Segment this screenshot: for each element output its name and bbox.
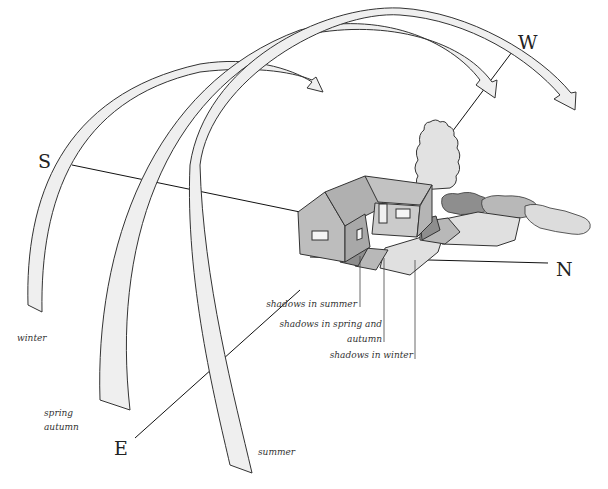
label-spring: spring xyxy=(44,408,73,418)
label-autumn: autumn xyxy=(44,422,79,432)
house-door xyxy=(379,204,387,223)
summer-sun-path-arrow xyxy=(189,8,576,473)
label-west: W xyxy=(518,31,538,53)
label-east: E xyxy=(114,437,128,459)
label-south: S xyxy=(38,150,51,172)
label-winter: winter xyxy=(17,333,47,343)
south-axis-line xyxy=(72,165,300,212)
label-shadows-winter: shadows in winter xyxy=(330,350,414,360)
house-window-front xyxy=(396,209,410,218)
tree-shadow-winter xyxy=(525,204,590,234)
house-window-left xyxy=(312,231,328,240)
label-shadows-spring-line1: shadows in spring and xyxy=(279,319,382,329)
label-summer: summer xyxy=(258,447,296,457)
label-shadows-spring-line2: autumn xyxy=(347,334,382,344)
label-north: N xyxy=(556,258,573,280)
tree-icon xyxy=(415,120,460,190)
sun-path-diagram: S W N E winter spring autumn summer shad… xyxy=(0,0,608,489)
label-shadows-summer: shadows in summer xyxy=(266,299,357,309)
house-window-side-1 xyxy=(357,228,362,240)
